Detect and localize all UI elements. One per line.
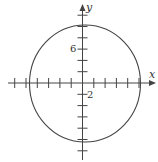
x-axis-label: x	[149, 68, 156, 81]
y-axis-label: y	[85, 1, 93, 14]
y-axis	[78, 4, 88, 160]
coordinate-plane-figure: y x 6 2	[0, 0, 158, 162]
y-axis-arrow-icon	[80, 4, 86, 11]
y-tick-label-6: 6	[70, 43, 76, 54]
x-tick-label-2: 2	[87, 89, 93, 100]
